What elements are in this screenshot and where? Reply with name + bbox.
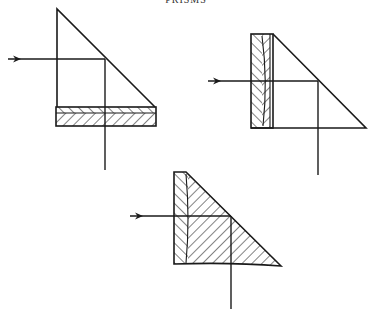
plate-lower-hatch	[56, 113, 156, 126]
plate-upper-hatch	[56, 107, 156, 113]
figure-2	[208, 34, 366, 175]
left-portion-hatch	[174, 172, 188, 266]
prism-outline	[57, 9, 155, 107]
prism-diagram	[0, 0, 372, 314]
figure-3	[130, 172, 283, 309]
figure-1	[8, 9, 156, 170]
